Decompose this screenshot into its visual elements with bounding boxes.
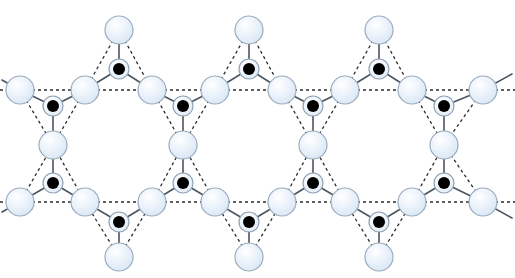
large-atom-circle — [469, 188, 497, 216]
large-atom-circle — [268, 76, 296, 104]
large-atom-circle — [39, 131, 67, 159]
large-atom — [398, 76, 426, 104]
large-atom — [365, 16, 393, 44]
large-atom — [430, 131, 458, 159]
large-atom-circle — [138, 188, 166, 216]
small-atom-core — [243, 216, 255, 228]
large-atom-circle — [398, 76, 426, 104]
small-atom-core — [243, 63, 255, 75]
large-atom — [201, 76, 229, 104]
large-atom-circle — [6, 76, 34, 104]
large-atom — [469, 188, 497, 216]
large-atom — [6, 188, 34, 216]
large-atom-circle — [331, 188, 359, 216]
small-atom — [43, 173, 63, 193]
large-atom — [105, 243, 133, 271]
large-atom — [6, 76, 34, 104]
large-atom-circle — [105, 243, 133, 271]
lattice-svg — [0, 0, 515, 278]
large-atom — [138, 76, 166, 104]
large-atom-circle — [138, 76, 166, 104]
small-atom — [173, 173, 193, 193]
small-atom — [109, 59, 129, 79]
large-atom — [331, 188, 359, 216]
large-atom-circle — [6, 188, 34, 216]
large-atom-circle — [105, 16, 133, 44]
small-atom — [369, 212, 389, 232]
small-atom — [369, 59, 389, 79]
large-atom — [398, 188, 426, 216]
lattice-diagram-canvas — [0, 0, 515, 278]
large-atom — [365, 243, 393, 271]
small-atom-core — [177, 100, 189, 112]
small-atom-core — [113, 63, 125, 75]
small-atom — [239, 59, 259, 79]
small-atom — [434, 173, 454, 193]
large-atom — [71, 76, 99, 104]
large-atom — [201, 188, 229, 216]
small-atom-core — [47, 100, 59, 112]
large-atom — [469, 76, 497, 104]
small-atom — [434, 96, 454, 116]
small-atom — [303, 96, 323, 116]
small-atom-core — [438, 100, 450, 112]
large-atom-circle — [71, 76, 99, 104]
large-atom-circle — [469, 76, 497, 104]
small-atom-core — [47, 177, 59, 189]
large-atom — [299, 131, 327, 159]
large-atom — [39, 131, 67, 159]
large-atom — [71, 188, 99, 216]
small-atom — [173, 96, 193, 116]
large-atom-circle — [299, 131, 327, 159]
large-atom — [235, 16, 263, 44]
large-atom-circle — [235, 16, 263, 44]
large-atom-circle — [398, 188, 426, 216]
large-atom-circle — [331, 76, 359, 104]
small-atom — [43, 96, 63, 116]
large-atom — [138, 188, 166, 216]
large-atom-circle — [71, 188, 99, 216]
large-atom-circle — [201, 76, 229, 104]
small-atom — [239, 212, 259, 232]
large-atom — [169, 131, 197, 159]
small-atom-core — [177, 177, 189, 189]
large-atom-circle — [365, 16, 393, 44]
large-atom — [268, 76, 296, 104]
small-atom — [303, 173, 323, 193]
small-atom-core — [307, 177, 319, 189]
small-atom-core — [373, 216, 385, 228]
large-atom-circle — [365, 243, 393, 271]
large-atom-circle — [201, 188, 229, 216]
large-atom — [235, 243, 263, 271]
small-atom-core — [113, 216, 125, 228]
large-atom-circle — [169, 131, 197, 159]
large-atom-circle — [235, 243, 263, 271]
small-atom-core — [373, 63, 385, 75]
large-atom — [268, 188, 296, 216]
small-atom-core — [438, 177, 450, 189]
small-atom-core — [307, 100, 319, 112]
large-atom-circle — [430, 131, 458, 159]
small-atom — [109, 212, 129, 232]
large-atom-circle — [268, 188, 296, 216]
large-atom — [105, 16, 133, 44]
large-atom — [331, 76, 359, 104]
